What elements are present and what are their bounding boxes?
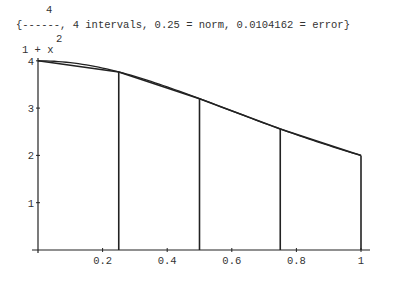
trapezoids <box>38 61 361 250</box>
x-tick-label: 0.6 <box>222 255 241 267</box>
y-tick-label: 3 <box>28 103 34 115</box>
chart-plot: 0.20.40.60.811234 <box>0 0 395 281</box>
axis-ticks: 0.20.40.60.811234 <box>28 56 364 267</box>
axes <box>32 58 370 253</box>
x-tick-label: 0.4 <box>158 255 177 267</box>
y-tick-label: 4 <box>28 56 34 68</box>
x-tick-label: 0.2 <box>93 255 112 267</box>
y-tick-label: 1 <box>28 198 34 210</box>
y-tick-label: 2 <box>28 150 34 162</box>
x-tick-label: 0.8 <box>287 255 306 267</box>
x-tick-label: 1 <box>358 255 364 267</box>
